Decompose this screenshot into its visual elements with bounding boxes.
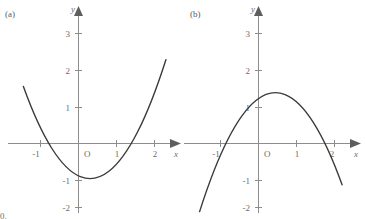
y-tick-label-2: 2: [66, 66, 71, 76]
y-tick-label-neg2: -2: [243, 203, 251, 213]
x-tick-label-neg1: -1: [212, 149, 220, 159]
origin-label: O: [264, 149, 271, 159]
y-tick-label-1: 1: [66, 103, 71, 113]
parabola-curve-a: [23, 60, 166, 179]
x-axis-name: x: [353, 149, 358, 159]
x-tick-label-1: 1: [295, 149, 300, 159]
y-axis-arrow-icon: [74, 6, 83, 16]
y-tick-label-2: 2: [246, 66, 251, 76]
y-tick-label-neg1: -1: [243, 176, 251, 186]
y-axis-name: y: [70, 4, 75, 14]
parabola-curve-b: [200, 93, 343, 212]
x-tick-label-2: 2: [153, 149, 158, 159]
origin-label: O: [84, 149, 91, 159]
x-tick-label-neg1: -1: [32, 149, 40, 159]
panel-a: (a) -1 1 2 3 2 1 -1 -2: [0, 0, 183, 219]
x-axis-name: x: [173, 149, 178, 159]
y-tick-label-neg1: -1: [63, 176, 71, 186]
x-axis-arrow-icon: [350, 139, 361, 148]
corner-text-fragment: 0.: [0, 212, 7, 219]
panel-a-plot: -1 1 2 3 2 1 -1 -2 O x y: [0, 0, 183, 219]
y-tick-label-neg2: -2: [63, 203, 71, 213]
panel-b: (b) -1 1 2 3 2 1 -1 -2: [182, 0, 365, 219]
y-tick-label-3: 3: [246, 29, 251, 39]
x-tick-label-1: 1: [115, 149, 120, 159]
panel-b-plot: -1 1 2 3 2 1 -1 -2 O x y: [182, 0, 365, 219]
x-axis-arrow-icon: [170, 139, 181, 148]
figure-sheet: (a) -1 1 2 3 2 1 -1 -2: [0, 0, 365, 219]
y-axis-name: y: [250, 4, 255, 14]
y-tick-label-3: 3: [66, 29, 71, 39]
y-axis-arrow-icon: [254, 6, 263, 16]
